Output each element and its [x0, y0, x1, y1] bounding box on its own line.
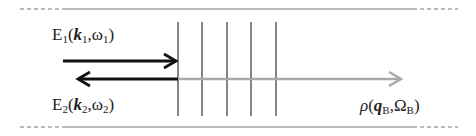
- reflected-arrow: [78, 72, 178, 86]
- label-rho: ρ(qB,ΩB): [360, 97, 420, 116]
- incident-arrow: [63, 54, 176, 68]
- label-e2: E2(k2,ω2): [52, 96, 114, 115]
- grating-lines: [178, 22, 276, 116]
- acoustic-wave-arrow: [178, 72, 401, 86]
- label-e1: E1(k1,ω1): [52, 26, 114, 45]
